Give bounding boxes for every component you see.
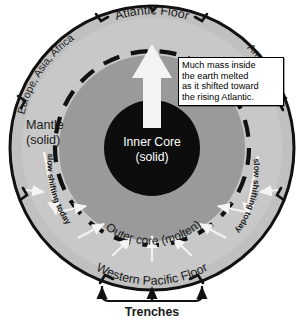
trenches-callout: Trenches (102, 286, 202, 319)
callout-line-1: Much mass inside (182, 60, 280, 71)
label-mantle-line1: Mantle (26, 118, 64, 132)
callout-box: Much mass inside the earth melted as it … (178, 57, 284, 106)
label-inner-core-line1: Inner Core (123, 135, 181, 149)
label-mantle: Mantle (solid) (26, 118, 64, 147)
callout-line-4: the rising Atlantic. (182, 92, 280, 103)
callout-line-2: the earth melted (182, 71, 280, 82)
label-mantle-line2: (solid) (26, 133, 60, 147)
callout-line-3: as it shifted toward (182, 81, 280, 92)
label-inner-core-line2: (solid) (135, 150, 168, 164)
diagram-canvas: Atlantic Floor Western Pacific Floor Eur… (0, 0, 304, 320)
earth-cross-section-diagram: Atlantic Floor Western Pacific Floor Eur… (0, 0, 304, 320)
label-trenches: Trenches (125, 305, 180, 319)
